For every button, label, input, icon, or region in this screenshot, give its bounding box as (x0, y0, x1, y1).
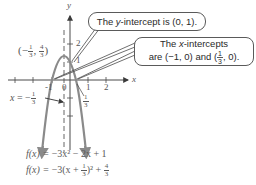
axis-of-symmetry-label: x = −13 (10, 91, 36, 106)
x-intercepts-callout: The x-intercepts are (−1, 0) and (13, 0)… (134, 37, 254, 66)
y-tick-2: 2 (76, 38, 81, 48)
vertex-form-equation: f(x) = −3(x + 13)² + 43 (26, 163, 109, 178)
x-axis (8, 77, 128, 83)
y-axis-label: y (67, 0, 71, 10)
y-axis (67, 16, 73, 150)
x-intercept-third-label: 13 (83, 94, 89, 109)
callout-leaders (54, 28, 135, 79)
x-tick-neg1: -1 (45, 82, 53, 92)
x-tick-2: 2 (104, 82, 109, 92)
x-axis-label: x (132, 74, 136, 84)
x-tick-1: 1 (86, 82, 91, 92)
standard-form-equation: f(x) = −3x² − 2x + 1 (26, 148, 107, 159)
vertex-label: (−13, 43) (18, 44, 48, 59)
x-tick-0: 0 (62, 82, 67, 92)
y-tick-1: 1 (76, 55, 81, 65)
y-intercept-callout: The y-intercept is (0, 1). (88, 12, 206, 31)
